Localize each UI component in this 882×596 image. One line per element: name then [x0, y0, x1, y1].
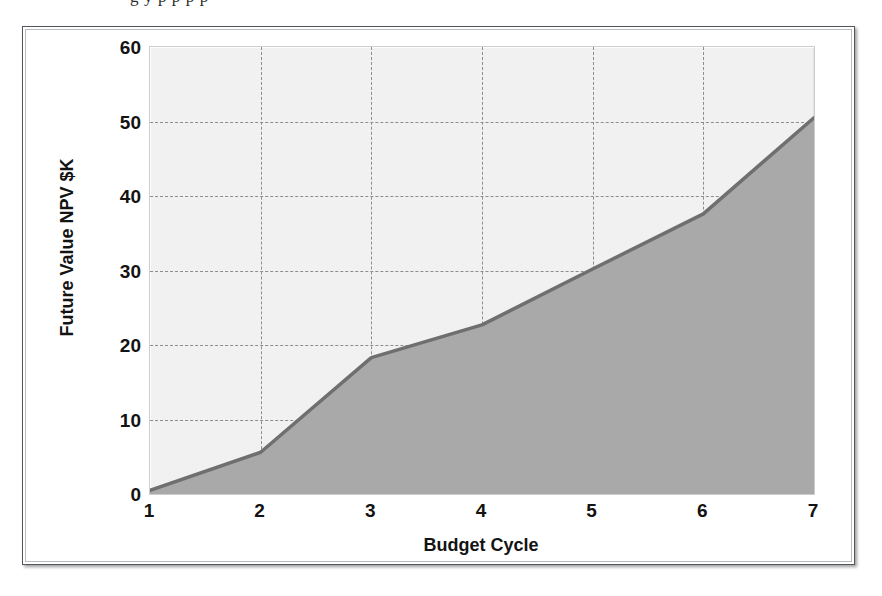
- x-tick-1: 1: [129, 501, 169, 520]
- x-tick-4: 4: [461, 501, 501, 520]
- y-axis-ticks: 60 50 40 30 20 10 0: [89, 46, 141, 493]
- x-tick-7: 7: [793, 501, 833, 520]
- figure-frame: 60 50 40 30 20 10 0 1 2 3 4 5 6 7 Budget…: [22, 26, 855, 565]
- clipped-caption-strip: g y p p p p: [0, 0, 882, 16]
- y-tick-40: 40: [95, 187, 141, 206]
- x-tick-5: 5: [572, 501, 612, 520]
- series-area-path: [150, 47, 814, 494]
- x-axis-title: Budget Cycle: [149, 535, 813, 556]
- y-tick-60: 60: [95, 38, 141, 57]
- y-tick-10: 10: [95, 411, 141, 430]
- x-tick-3: 3: [350, 501, 390, 520]
- y-axis-title: Future Value NPV $K: [57, 68, 78, 428]
- area-chart: 60 50 40 30 20 10 0 1 2 3 4 5 6 7 Budget…: [23, 27, 856, 566]
- y-tick-30: 30: [95, 262, 141, 281]
- x-tick-6: 6: [682, 501, 722, 520]
- y-tick-20: 20: [95, 336, 141, 355]
- x-axis-ticks: 1 2 3 4 5 6 7: [149, 501, 813, 527]
- area-fill-polygon: [150, 118, 814, 494]
- plot-area: [149, 46, 815, 495]
- clipped-caption-text: g y p p p p: [130, 0, 209, 7]
- x-tick-2: 2: [240, 501, 280, 520]
- y-tick-50: 50: [95, 113, 141, 132]
